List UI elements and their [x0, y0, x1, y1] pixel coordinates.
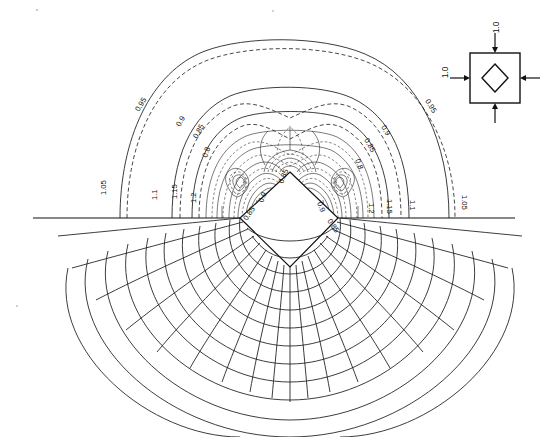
inset-arrow-right	[520, 75, 540, 81]
inset-diamond	[482, 64, 508, 92]
contour-figure: 0.95 0.9 0.85 0.8 1.05 1.1 1.15 1.2 0.95…	[0, 0, 548, 437]
diamond-indenter	[240, 172, 338, 267]
contour-label: 0.9	[379, 124, 392, 138]
contour-label: 1.05	[460, 195, 469, 210]
contour-label-group-right: 0.95 0.9 0.85 0.8 1.05 1.1 1.15 1.2	[353, 97, 469, 213]
contour-label: 1.15	[170, 184, 179, 199]
inset-load-label-left: 1.0	[441, 66, 450, 78]
contour-label: 1.2	[189, 192, 198, 203]
inset-arrow-top	[492, 33, 498, 53]
contour-label: 0.8	[200, 146, 212, 159]
contour-label-group-left: 0.95 0.9 0.85 0.8 1.05 1.1 1.15 1.2	[99, 96, 212, 203]
contour-label: 1.2	[367, 203, 376, 214]
contour-label: 1.15	[385, 199, 394, 214]
paper-noise	[16, 9, 274, 307]
contour-label: 1.1	[150, 189, 159, 200]
contour-group-crown	[260, 126, 319, 172]
inset-square	[470, 53, 520, 103]
inset-arrow-bottom	[492, 103, 498, 123]
contour-label: 1.1	[408, 200, 417, 211]
contour-label: 0.9	[174, 114, 187, 128]
contour-label: 1.05	[99, 180, 108, 195]
inset-arrow-left	[450, 75, 470, 81]
contour-label: 0.8	[353, 158, 365, 171]
inset-load-label-top: 1.0	[492, 21, 501, 33]
inset-load-diagram: 1.0 1.0	[441, 21, 540, 123]
contour-label: 0.85	[191, 123, 206, 140]
